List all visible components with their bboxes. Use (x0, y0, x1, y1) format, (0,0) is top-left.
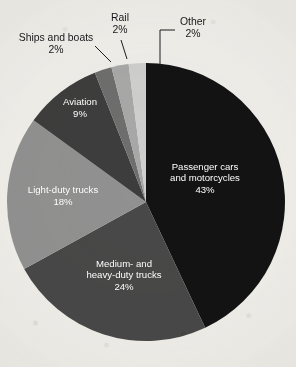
slice-label-other: Other2% (180, 16, 207, 40)
slice-label-rail: Rail2% (111, 12, 129, 36)
pie-chart-figure: Passenger carsand motorcycles43%Medium- … (0, 0, 296, 367)
pie-chart-canvas: Passenger carsand motorcycles43%Medium- … (0, 0, 296, 367)
leader-line-ships-and-boats (95, 46, 111, 62)
pie-wedges (7, 63, 285, 341)
leader-lines (95, 30, 175, 66)
slice-label-ships-and-boats: Ships and boats2% (19, 32, 94, 56)
leader-line-rail (121, 40, 127, 59)
leader-line-other (160, 30, 175, 66)
